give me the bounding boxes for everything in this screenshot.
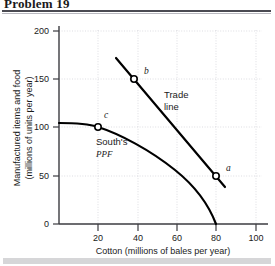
ppf-trade-chart: 200 150 100 50 0 20 40 60 80 100 [0, 0, 275, 266]
point-label-c: c [104, 110, 109, 120]
y-tick-label-200: 200 [34, 26, 49, 36]
marker-point-c [95, 124, 101, 130]
y-axis-tick-labels: 200 150 100 50 0 [34, 26, 49, 229]
x-tick-label-60: 60 [172, 233, 182, 243]
x-tick-label-100: 100 [248, 233, 263, 243]
y-tick-label-0: 0 [44, 219, 49, 229]
south-ppf-curve [59, 123, 216, 224]
footer-band [3, 258, 271, 264]
y-tick-label-100: 100 [34, 122, 49, 132]
trade-line-label-line2: line [164, 101, 179, 112]
figure-root: Problem 19 [0, 0, 275, 266]
grid-lines [59, 30, 262, 224]
x-axis-title: Cotton (millions of bales per year) [96, 246, 231, 256]
x-tick-label-80: 80 [211, 233, 221, 243]
point-label-a: a [226, 163, 231, 173]
trade-line-annotation: Trade line [164, 89, 188, 112]
y-axis-title-line2: (millions of units per year) [24, 76, 34, 179]
y-tick-label-150: 150 [34, 74, 49, 84]
x-tick-label-20: 20 [93, 233, 103, 243]
trade-line-label-line1: Trade [164, 89, 188, 100]
marker-point-b [131, 76, 137, 82]
x-tick-label-40: 40 [133, 233, 143, 243]
x-axis-tick-labels: 20 40 60 80 100 [93, 233, 264, 243]
y-tick-label-50: 50 [39, 171, 49, 181]
ppf-label-line2: PPF [95, 149, 113, 159]
y-axis-title-line1: Manufactured items and food [12, 70, 22, 187]
y-axis-ticks [53, 31, 59, 224]
ppf-annotation: South's PPF [95, 136, 128, 159]
point-label-b: b [144, 66, 149, 76]
x-axis-ticks [98, 224, 256, 231]
ppf-label-line1: South's [96, 136, 128, 147]
data-point-markers [95, 76, 219, 179]
marker-point-a [213, 173, 219, 179]
